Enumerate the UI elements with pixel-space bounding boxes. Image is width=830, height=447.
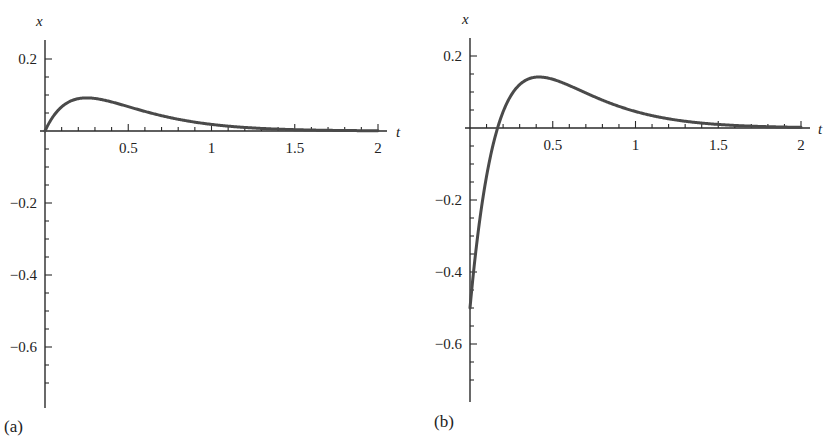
y-tick-label: −0.2 [435,192,462,208]
x-tick-label: 1.5 [709,137,728,153]
y-tick-label: −0.4 [435,264,463,280]
y-tick-label: −0.4 [10,267,38,283]
x-tick-label: 1 [632,137,640,153]
x-axis-label: t [818,121,823,137]
y-axis-label: x [35,13,43,29]
y-tick-label: −0.6 [435,336,463,352]
y-tick-label: 0.2 [18,51,37,67]
panel-label: (b) [434,412,454,431]
x-tick-label: 2 [374,140,382,156]
plot-panel-b: 0.511.520.2−0.2−0.4−0.6tx(b) [434,11,823,431]
y-tick-label: −0.2 [10,195,37,211]
y-axis-label: x [461,11,469,27]
x-tick-label: 1.5 [285,140,304,156]
x-tick-label: 1 [208,140,216,156]
x-tick-label: 0.5 [119,140,138,156]
x-tick-label: 2 [797,137,805,153]
plot-panel-a: 0.511.520.2−0.2−0.4−0.6tx(a) [4,13,401,436]
panel-label: (a) [4,417,23,436]
chart-canvas: 0.511.520.2−0.2−0.4−0.6tx(a) 0.511.520.2… [0,0,830,447]
y-tick-label: 0.2 [443,48,462,64]
x-tick-label: 0.5 [543,137,562,153]
data-curve [470,77,801,308]
y-tick-label: −0.6 [10,339,38,355]
x-axis-label: t [396,124,401,140]
